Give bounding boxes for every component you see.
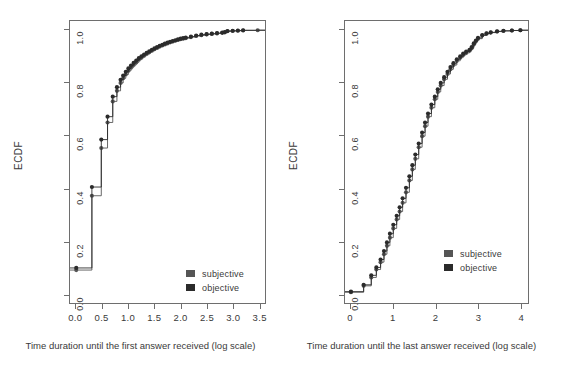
y-tick-label: 0.0 bbox=[350, 294, 360, 314]
plot-area-first-answer bbox=[69, 20, 266, 304]
data-point bbox=[404, 186, 408, 190]
y-tick-mark bbox=[64, 295, 69, 296]
x-tick-mark bbox=[350, 304, 351, 309]
data-point bbox=[111, 95, 115, 99]
x-tick-mark bbox=[207, 304, 208, 309]
data-point bbox=[391, 223, 395, 227]
data-point bbox=[442, 75, 446, 79]
legend-swatch-icon bbox=[186, 284, 195, 291]
y-tick-mark bbox=[339, 295, 344, 296]
data-point bbox=[433, 95, 437, 99]
panel-last-answer: 0.00.20.40.60.81.001234 ECDF Time durati… bbox=[281, 0, 562, 383]
data-point bbox=[495, 29, 499, 33]
data-point bbox=[395, 214, 399, 218]
x-tick-mark bbox=[478, 304, 479, 309]
y-tick-mark bbox=[339, 135, 344, 136]
data-point bbox=[480, 33, 484, 37]
x-tick-label: 1.5 bbox=[147, 312, 161, 323]
data-point bbox=[231, 29, 235, 33]
x-tick-label: 4 bbox=[518, 312, 524, 323]
x-tick-label: 0 bbox=[347, 312, 353, 323]
data-point bbox=[420, 130, 424, 134]
x-tick-label: 1.0 bbox=[121, 312, 135, 323]
data-point bbox=[215, 31, 219, 35]
x-tick-mark bbox=[128, 304, 129, 309]
data-point bbox=[439, 81, 443, 85]
data-point bbox=[90, 185, 94, 189]
data-point bbox=[99, 138, 103, 142]
data-point bbox=[105, 115, 109, 119]
data-point bbox=[510, 28, 514, 32]
y-tick-label: 0.4 bbox=[75, 188, 85, 208]
legend-item-objective: objective bbox=[444, 262, 502, 273]
y-tick-mark bbox=[64, 29, 69, 30]
x-tick-mark bbox=[102, 304, 103, 309]
data-point bbox=[429, 102, 433, 106]
legend-item-subjective: subjective bbox=[186, 268, 244, 279]
legend-last-answer: subjectiveobjective bbox=[444, 248, 502, 273]
data-point bbox=[407, 174, 411, 178]
x-axis-title: Time duration until the last answer rece… bbox=[281, 340, 562, 351]
data-point bbox=[445, 70, 449, 74]
data-point bbox=[382, 249, 386, 253]
data-point bbox=[184, 36, 188, 40]
y-axis-title: ECDF bbox=[288, 126, 299, 186]
data-point bbox=[410, 163, 414, 167]
y-tick-mark bbox=[64, 82, 69, 83]
legend-swatch-icon bbox=[444, 250, 453, 257]
data-point bbox=[423, 120, 427, 124]
data-point bbox=[518, 28, 522, 32]
data-point bbox=[448, 65, 452, 69]
x-tick-mark bbox=[154, 304, 155, 309]
y-tick-mark bbox=[339, 29, 344, 30]
y-tick-label: 0.6 bbox=[350, 134, 360, 154]
legend-label: objective bbox=[460, 263, 497, 273]
y-tick-label: 0.2 bbox=[75, 241, 85, 261]
legend-label: objective bbox=[202, 283, 239, 293]
y-tick-label: 0.8 bbox=[350, 81, 360, 101]
y-tick-mark bbox=[64, 135, 69, 136]
data-point bbox=[241, 28, 245, 32]
x-tick-label: 3 bbox=[476, 312, 482, 323]
ecdf-step-objective bbox=[70, 30, 265, 268]
data-point bbox=[189, 34, 193, 38]
data-point bbox=[199, 33, 203, 37]
plot-canvas-first-answer bbox=[70, 21, 265, 303]
data-point bbox=[417, 141, 421, 145]
y-tick-label: 0.6 bbox=[75, 134, 85, 154]
legend-swatch-icon bbox=[444, 264, 453, 271]
data-point bbox=[388, 232, 392, 236]
data-point bbox=[401, 196, 405, 200]
data-point bbox=[74, 266, 78, 270]
x-tick-label: 2.0 bbox=[174, 312, 188, 323]
x-tick-label: 1 bbox=[390, 312, 396, 323]
legend-item-objective: objective bbox=[186, 282, 244, 293]
data-point bbox=[426, 111, 430, 115]
y-tick-label: 0.4 bbox=[350, 188, 360, 208]
y-axis-title: ECDF bbox=[13, 126, 24, 186]
data-point bbox=[210, 32, 214, 36]
x-tick-mark bbox=[436, 304, 437, 309]
y-tick-label: 1.0 bbox=[350, 28, 360, 48]
data-point bbox=[124, 70, 128, 74]
y-tick-mark bbox=[339, 189, 344, 190]
data-point bbox=[121, 73, 125, 77]
legend-item-subjective: subjective bbox=[444, 248, 502, 259]
y-tick-label: 1.0 bbox=[75, 28, 85, 48]
x-tick-mark bbox=[181, 304, 182, 309]
legend-swatch-icon bbox=[186, 270, 195, 277]
data-point bbox=[455, 57, 459, 61]
ecdf-figure: 0.00.20.40.60.81.00.00.51.01.52.02.53.03… bbox=[0, 0, 562, 383]
data-point bbox=[489, 30, 493, 34]
data-point bbox=[413, 153, 417, 157]
legend-first-answer: subjectiveobjective bbox=[186, 268, 244, 293]
data-point bbox=[118, 78, 122, 82]
x-tick-label: 3.5 bbox=[253, 312, 267, 323]
x-tick-label: 3.0 bbox=[226, 312, 240, 323]
data-point bbox=[484, 31, 488, 35]
x-tick-mark bbox=[75, 304, 76, 309]
data-point bbox=[476, 36, 480, 40]
x-tick-mark bbox=[260, 304, 261, 309]
x-tick-mark bbox=[521, 304, 522, 309]
data-point bbox=[470, 45, 474, 49]
